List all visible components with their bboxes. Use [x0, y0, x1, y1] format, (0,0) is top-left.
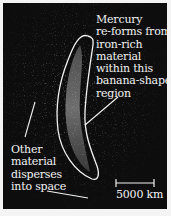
- other-material-annotation: Other material disperses into space: [11, 144, 66, 193]
- mercury-annotation: Mercury re-forms from iron-rich material…: [96, 14, 171, 100]
- scale-bar-label: 5000 km: [116, 189, 163, 201]
